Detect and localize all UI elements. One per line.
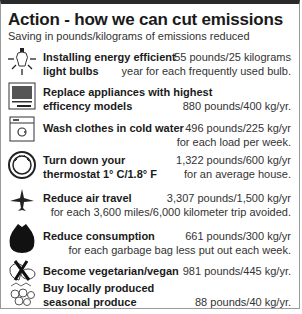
action-value: 981 pounds/445 kg/yr. [183, 264, 291, 278]
action-detail: year for each frequently used bulb. [122, 64, 291, 78]
action-label: Turn down your thermostat 1° C/1.8° F [43, 153, 157, 181]
action-row-light-bulbs: Installing energy efficient light bulbs … [1, 46, 301, 80]
action-value: 3,307 pounds/1,500 kg/yr [167, 191, 291, 205]
thermostat-icon [7, 150, 37, 180]
action-detail: for each garbage bag less put out each w… [68, 243, 291, 257]
action-label: Reduce consumption [43, 229, 155, 243]
action-label: Buy locally produced seasonal produce [43, 281, 154, 309]
action-detail: for an average house. [184, 167, 291, 181]
action-value: 496 pounds/225 kg/yr [185, 121, 291, 135]
action-row-thermostat: Turn down your thermostat 1° C/1.8° F 1,… [1, 149, 301, 183]
garbage-bag-icon [7, 222, 37, 254]
action-label: Become vegetarian/vegan [43, 264, 179, 278]
washing-machine-icon [7, 114, 37, 144]
infographic-panel: Action - how we can cut emissions Saving… [0, 0, 300, 309]
action-row-local-produce: Buy locally produced seasonal produce 88… [1, 280, 301, 310]
action-label: Wash clothes in cold water [43, 121, 184, 135]
action-label: Reduce air travel [43, 191, 132, 205]
action-detail: for each 3,600 miles/6,000 kilometer tri… [51, 205, 291, 219]
action-value: 880 pounds/400 kg/yr. [183, 99, 291, 113]
action-row-air-travel: Reduce air travel 3,307 pounds/1,500 kg/… [1, 186, 301, 220]
action-value: 661 pounds/300 kg/yr [185, 229, 291, 243]
page-title: Action - how we can cut emissions [8, 10, 283, 30]
airplane-icon [7, 186, 37, 216]
action-row-vegetarian: Become vegetarian/vegan 981 pounds/445 k… [1, 260, 301, 282]
appliance-icon [7, 81, 37, 111]
light-bulb-icon [7, 47, 37, 77]
action-value: 55 pounds/25 kilograms [174, 50, 291, 64]
action-value: 88 pounds/40 kg/yr. [195, 295, 291, 309]
page-subtitle: Saving in pounds/kilograms of emissions … [8, 30, 250, 42]
action-row-cold-wash: Wash clothes in cold water 496 pounds/22… [1, 114, 301, 148]
action-value: 1,322 pounds/600 kg/yr [176, 153, 291, 167]
action-row-consumption: Reduce consumption 661 pounds/300 kg/yr … [1, 222, 301, 258]
action-detail: for each load per week. [177, 135, 291, 149]
action-row-appliances: Replace appliances with highest efficenc… [1, 80, 301, 114]
produce-icon [7, 280, 37, 310]
